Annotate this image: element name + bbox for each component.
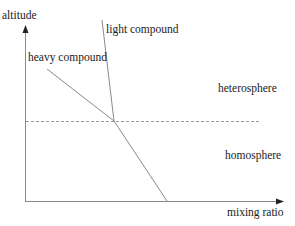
heterosphere-label: heterosphere: [218, 83, 277, 95]
heavy-compound-label: heavy compound: [28, 52, 107, 64]
heavy-compound-line: [47, 69, 114, 121]
y-axis-arrow-icon: [23, 25, 29, 33]
homosphere-mixing-line: [114, 121, 167, 201]
x-axis-label: mixing ratio: [227, 207, 284, 219]
y-axis-label: altitude: [2, 10, 37, 22]
light-compound-label: light compound: [106, 24, 179, 36]
x-axis-arrow-icon: [276, 199, 284, 205]
homosphere-label: homosphere: [225, 150, 281, 162]
